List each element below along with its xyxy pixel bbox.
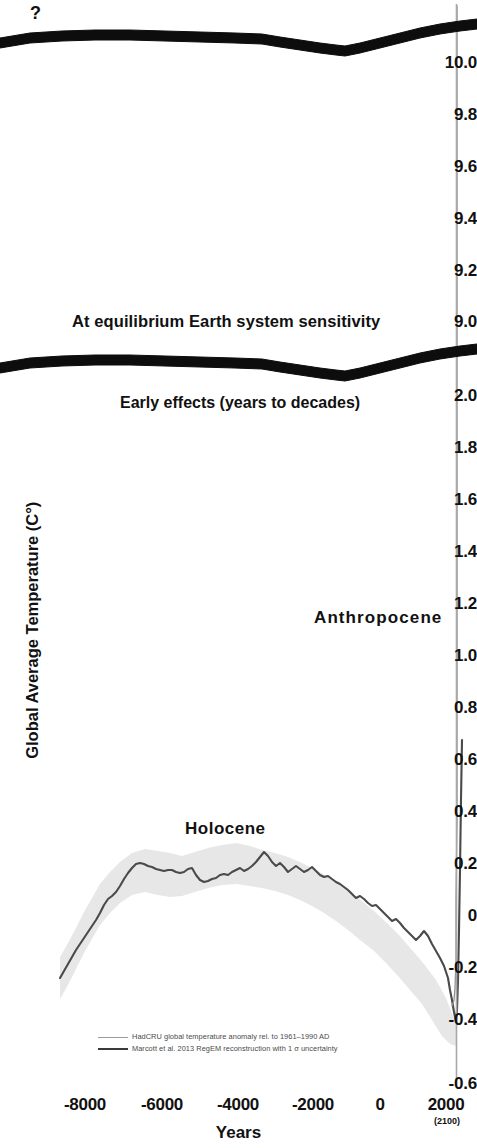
ytick-9-4: 9.4 (419, 210, 477, 227)
ytick-0: 0 (419, 907, 477, 924)
xtick-zero: 0 (375, 1096, 384, 1113)
ytick-1-6: 1.6 (419, 491, 477, 508)
xtick-minus-6000: -6000 (141, 1096, 183, 1113)
ytick-0-2: 0.2 (419, 855, 477, 872)
upper-break-band (0, 19, 477, 56)
legend-swatch-marcott-line-icon (98, 1048, 128, 1050)
plot-area (0, 0, 477, 1148)
lower-break-band (0, 344, 477, 381)
ytick-9-0: 9.0 (419, 313, 477, 330)
ytick-9-8: 9.8 (419, 106, 477, 123)
y-axis-title: Global Average Temperature (C°) (24, 430, 41, 830)
legend-swatch-hadcru-line-icon (98, 1037, 128, 1038)
x-axis-title: Years (0, 1124, 477, 1141)
ytick-0-8: 0.8 (419, 699, 477, 716)
ytick-9-6: 9.6 (419, 158, 477, 175)
ytick-1-8: 1.8 (419, 439, 477, 456)
xtick-minus-4000: -4000 (217, 1096, 259, 1113)
ytick-9-2: 9.2 (419, 262, 477, 279)
ytick-1-4: 1.4 (419, 543, 477, 560)
legend-label-hadcru: HadCRU global temperature anomaly rel. t… (132, 1033, 329, 1040)
legend-label-marcott: Marcott et al. 2013 RegEM reconstruction… (132, 1045, 338, 1052)
chart-legend: HadCRU global temperature anomaly rel. t… (98, 1031, 448, 1055)
legend-item-marcott: Marcott et al. 2013 RegEM reconstruction… (98, 1043, 448, 1055)
ytick-10-0: 10.0 (419, 54, 477, 71)
ytick-neg-0-6: -0.6 (419, 1075, 477, 1092)
annotation-question-mark: ? (30, 4, 41, 22)
ytick-0-6: 0.6 (419, 751, 477, 768)
ytick-0-4: 0.4 (419, 803, 477, 820)
xtick-2000: 2000 (428, 1096, 465, 1113)
ytick-1-0: 1.0 (419, 647, 477, 664)
annotation-equilibrium: At equilibrium Earth system sensitivity (72, 313, 380, 330)
annotation-holocene: Holocene (185, 820, 266, 837)
xtick-minus-2000: -2000 (292, 1096, 334, 1113)
xtick-minus-8000: -8000 (64, 1096, 106, 1113)
ytick-neg-0-4: -0.4 (419, 1011, 477, 1028)
annotation-early-effects: Early effects (years to decades) (120, 395, 360, 411)
climate-chart: 10.0 9.8 9.6 9.4 9.2 9.0 2.0 1.8 1.6 1.4… (0, 0, 477, 1148)
ytick-neg-0-2: -0.2 (419, 959, 477, 976)
annotation-anthropocene: Anthropocene (314, 609, 442, 626)
legend-item-hadcru: HadCRU global temperature anomaly rel. t… (98, 1031, 448, 1043)
uncertainty-band (60, 843, 456, 1046)
ytick-2-0: 2.0 (419, 387, 477, 404)
